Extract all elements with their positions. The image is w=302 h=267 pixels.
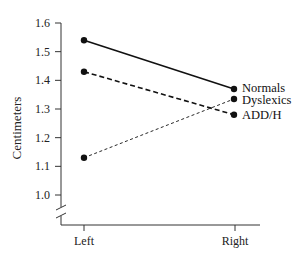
- y-tick-label: 1.4: [35, 73, 50, 87]
- series-lines: [81, 37, 237, 161]
- y-axis: 1.01.11.21.31.41.51.6: [35, 16, 66, 225]
- data-point: [231, 86, 237, 92]
- data-point: [231, 112, 237, 118]
- data-point: [231, 96, 237, 102]
- x-tick-label: Left: [74, 234, 95, 248]
- data-point: [81, 155, 87, 161]
- data-point: [81, 37, 87, 43]
- series-label: ADD/H: [242, 108, 282, 122]
- y-tick-label: 1.3: [35, 102, 50, 116]
- y-tick-label: 1.6: [35, 16, 50, 30]
- y-tick-label: 1.0: [35, 188, 50, 202]
- series-labels: NormalsDyslexicsADD/H: [242, 81, 291, 122]
- x-axis: LeftRight: [61, 225, 260, 248]
- y-axis-title: Centimeters: [9, 97, 24, 160]
- x-tick-label: Right: [222, 234, 249, 248]
- y-tick-label: 1.1: [35, 159, 50, 173]
- series-line-normals: [84, 40, 234, 89]
- y-tick-label: 1.2: [35, 131, 50, 145]
- series-label: Dyslexics: [242, 93, 291, 107]
- data-point: [81, 69, 87, 75]
- line-chart: 1.01.11.21.31.41.51.6 LeftRight NormalsD…: [0, 0, 302, 267]
- series-line-addh: [84, 72, 234, 115]
- y-tick-label: 1.5: [35, 45, 50, 59]
